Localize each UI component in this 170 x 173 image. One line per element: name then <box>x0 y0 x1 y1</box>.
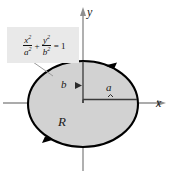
region-label-R: R <box>58 115 66 128</box>
fraction-x-over-a: x2 a2 <box>23 35 33 57</box>
fraction-denominator-a: a2 <box>23 46 33 57</box>
b-exponent: 2 <box>47 46 50 52</box>
x-exponent: 2 <box>28 34 31 40</box>
x-axis-label: x <box>156 97 161 109</box>
figure-canvas <box>0 0 170 173</box>
equation-right-hand-side: = 1 <box>54 41 66 51</box>
fraction-y-over-b: y2 b2 <box>42 35 52 57</box>
y-axis-label: y <box>87 6 92 18</box>
semi-major-axis-label-a: a <box>106 82 112 93</box>
ellipse-equation: x2 a2 + y2 b2 = 1 <box>11 32 77 59</box>
semi-minor-axis-label-b: b <box>61 79 67 90</box>
a-exponent: 2 <box>29 46 32 52</box>
ellipse-region-figure: x2 a2 + y2 b2 = 1 y x R b a <box>0 0 170 173</box>
fraction-denominator-b: b2 <box>42 46 52 57</box>
fraction-numerator-y: y2 <box>42 35 51 47</box>
y-axis-arrowhead <box>80 7 86 16</box>
y-exponent: 2 <box>47 34 50 40</box>
plus-operator: + <box>35 41 40 51</box>
fraction-numerator-x: x2 <box>23 35 32 47</box>
